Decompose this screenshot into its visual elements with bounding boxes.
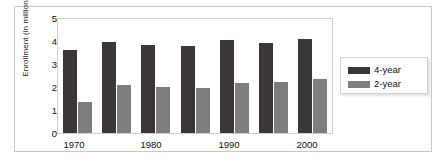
- bar-group: [141, 19, 170, 133]
- legend-label-2year: 2-year: [374, 79, 401, 89]
- bar-2year: [117, 85, 131, 133]
- x-tick-label-1990: 1990: [209, 139, 249, 150]
- x-tick-label-1970: 1970: [54, 139, 94, 150]
- bar-4year: [63, 50, 77, 133]
- legend-item-2year[interactable]: 2-year: [348, 78, 401, 90]
- bar-2year: [313, 79, 327, 133]
- bar-4year: [298, 39, 312, 133]
- bar-2year: [196, 88, 210, 133]
- x-tick-label-2000: 2000: [287, 139, 327, 150]
- legend-swatch-2year: [348, 81, 370, 88]
- bar-2year: [274, 82, 288, 133]
- legend-label-4year: 4-year: [374, 65, 401, 75]
- bar-2year: [235, 83, 249, 133]
- bar-4year: [102, 42, 116, 133]
- bar-group: [181, 19, 210, 133]
- bar-4year: [259, 43, 273, 133]
- y-tick-label-5: 5: [23, 14, 57, 23]
- bar-2year: [78, 102, 92, 133]
- bar-4year: [220, 40, 234, 133]
- y-tick-label-4: 4: [23, 37, 57, 46]
- bar-group: [298, 19, 327, 133]
- bar-group: [63, 19, 92, 133]
- legend-item-4year[interactable]: 4-year: [348, 64, 401, 76]
- bar-group: [102, 19, 131, 133]
- y-tick-label-3: 3: [23, 60, 57, 69]
- x-tick-label-1980: 1980: [131, 139, 171, 150]
- y-tick-label-2: 2: [23, 83, 57, 92]
- chart-legend: 4-year 2-year: [340, 57, 428, 94]
- bar-2year: [156, 87, 170, 133]
- legend-swatch-4year: [348, 67, 370, 74]
- bar-4year: [141, 45, 155, 133]
- y-axis-ticks: 5 4 3 2 1 0: [0, 0, 57, 163]
- y-tick-label-1: 1: [23, 106, 57, 115]
- plot-area: [58, 19, 332, 133]
- y-tick-label-0: 0: [23, 129, 57, 138]
- bar-group: [220, 19, 249, 133]
- bar-4year: [181, 46, 195, 133]
- chart-figure: Enrollment (in millions) 5 4 3 2 1 0 197…: [0, 0, 446, 163]
- bar-group: [259, 19, 288, 133]
